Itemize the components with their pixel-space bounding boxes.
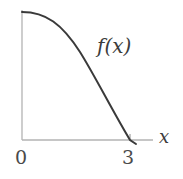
- x-axis-label: x: [159, 128, 169, 146]
- curve-group: [22, 12, 136, 144]
- x-tick-label-0: 0: [15, 148, 27, 167]
- function-curve: [22, 12, 136, 144]
- plot-canvas: [0, 0, 183, 179]
- function-plot-figure: f(x) x 0 3: [0, 0, 183, 179]
- x-tick-label-3: 3: [122, 148, 134, 167]
- axes-group: [22, 10, 153, 140]
- function-label: f(x): [97, 36, 131, 56]
